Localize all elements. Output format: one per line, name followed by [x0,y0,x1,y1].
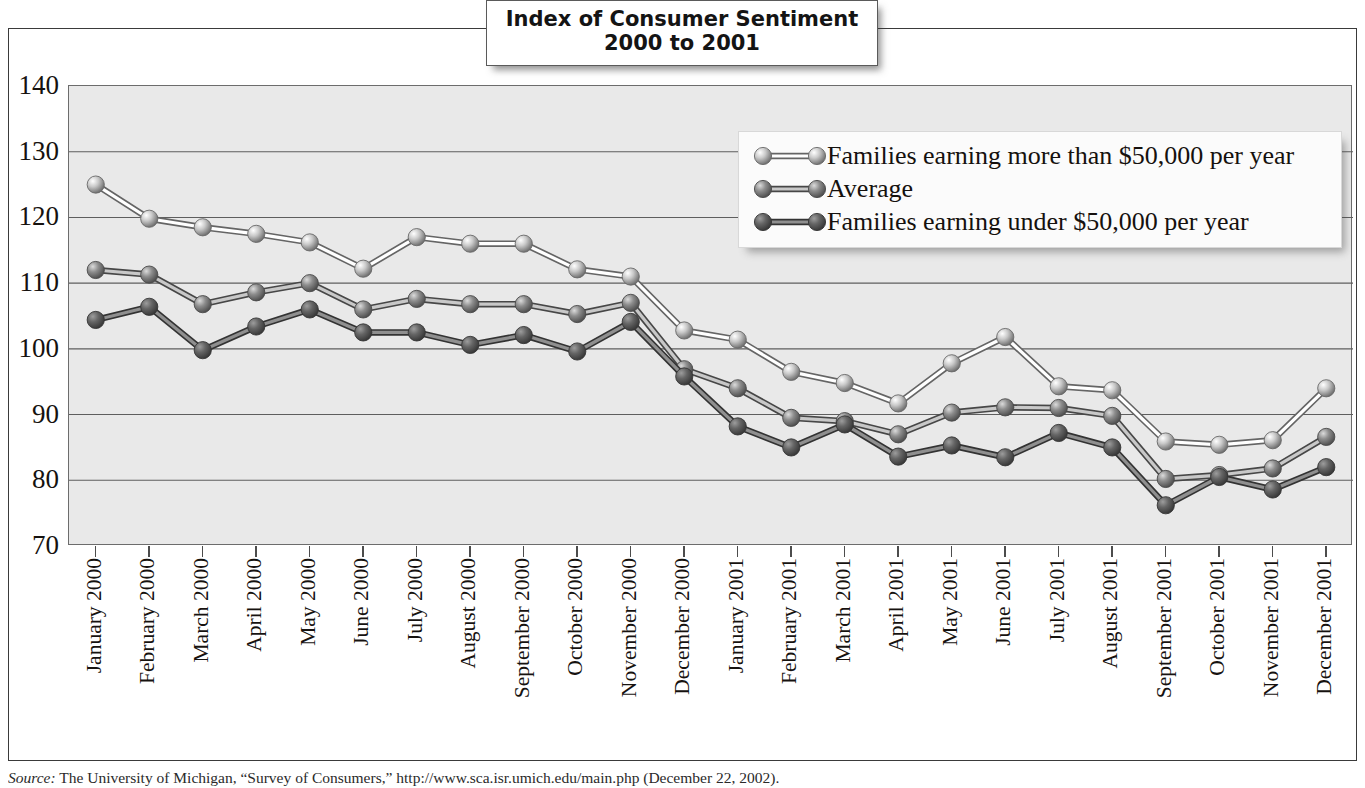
data-point [783,439,800,456]
x-tick-label: March 2000 [191,558,213,663]
data-point [1104,382,1121,399]
x-tick [1058,546,1059,557]
x-tick [790,546,791,557]
x-tick-label: August 2000 [459,558,481,669]
chart-figure: Index of Consumer Sentiment 2000 to 2001… [0,0,1365,788]
data-point [1318,380,1335,397]
data-point [1318,428,1335,445]
legend-marker-icon [753,177,827,201]
data-point [569,305,586,322]
x-tick-label: January 2000 [84,558,106,673]
data-point [997,328,1014,345]
y-tick-label: 80 [0,466,59,493]
data-point [1211,436,1228,453]
data-point [622,294,639,311]
x-tick [1004,546,1005,557]
data-point [890,395,907,412]
x-tick-label: December 2001 [1315,558,1337,695]
data-point [943,355,960,372]
x-tick [844,546,845,557]
x-tick [683,546,684,557]
data-point [408,290,425,307]
x-tick-label: June 2001 [994,558,1016,646]
data-point [248,318,265,335]
y-tick-label: 140 [0,72,59,99]
legend-item[interactable]: Families earning more than $50,000 per y… [753,139,1327,172]
data-point [676,322,693,339]
source-note: Source: The University of Michigan, “Sur… [8,769,1357,787]
legend-item[interactable]: Families earning under $50,000 per year [753,205,1327,238]
data-point [836,374,853,391]
data-point [890,426,907,443]
legend-item-label: Families earning under $50,000 per year [827,209,1249,235]
data-point [1264,432,1281,449]
chart-title-line-2: 2000 to 2001 [497,32,867,56]
data-point [87,311,104,328]
data-point [1157,433,1174,450]
data-point [194,296,211,313]
data-point [248,225,265,242]
legend-item-label: Families earning more than $50,000 per y… [827,143,1294,169]
x-tick-label: May 2000 [298,558,320,646]
x-tick-label: May 2001 [940,558,962,646]
data-point [729,380,746,397]
x-tick-label: November 2000 [619,558,641,697]
x-tick-label: October 2001 [1208,558,1230,676]
data-point [783,363,800,380]
data-point [569,261,586,278]
y-tick-label: 90 [0,400,59,427]
data-point [462,336,479,353]
source-text: The University of Michigan, “Survey of C… [56,769,780,786]
data-point [515,235,532,252]
x-tick-label: July 2001 [1047,558,1069,642]
x-tick [1218,546,1219,557]
x-tick-label: August 2001 [1101,558,1123,669]
legend-item[interactable]: Average [753,172,1327,205]
x-tick-label: April 2000 [245,558,267,652]
data-point [1211,468,1228,485]
data-point [569,343,586,360]
data-point [1050,378,1067,395]
x-tick-label: September 2001 [1154,558,1176,698]
x-tick [897,546,898,557]
x-tick [148,546,149,557]
legend-marker-icon [753,144,827,168]
data-point [1050,424,1067,441]
x-tick [362,546,363,557]
x-tick-label: January 2001 [726,558,748,673]
data-point [408,229,425,246]
data-point [194,219,211,236]
data-point [194,342,211,359]
data-point [355,324,372,341]
series-2 [87,298,1335,514]
series-1 [87,261,1335,487]
data-point [676,368,693,385]
data-point [301,234,318,251]
y-tick-label: 110 [0,269,59,296]
data-point [515,326,532,343]
data-point [943,404,960,421]
x-tick [951,546,952,557]
data-point [729,331,746,348]
x-tick [576,546,577,557]
x-tick-label: April 2001 [887,558,909,652]
data-point [1104,407,1121,424]
x-tick [1325,546,1326,557]
x-tick-label: November 2001 [1261,558,1283,697]
x-tick-label: February 2001 [780,558,802,684]
x-tick [737,546,738,557]
x-tick [523,546,524,557]
x-tick-label: March 2001 [833,558,855,663]
data-point [1318,459,1335,476]
data-point [997,449,1014,466]
x-tick [469,546,470,557]
data-point [248,284,265,301]
x-tick [630,546,631,557]
x-tick-label: July 2000 [405,558,427,642]
data-point [87,261,104,278]
data-point [622,313,639,330]
data-point [515,296,532,313]
data-point [141,266,158,283]
x-tick [416,546,417,557]
x-tick-label: June 2000 [352,558,374,646]
